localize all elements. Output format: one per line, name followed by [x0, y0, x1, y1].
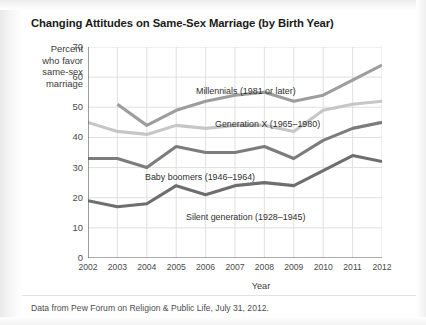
footer-divider: [22, 295, 416, 296]
x-axis-title: Year: [0, 281, 426, 291]
y-tick-label-30: 30: [61, 162, 83, 173]
page-edge-shading-bottom: [0, 317, 426, 325]
y-tick-label-40: 40: [61, 131, 83, 142]
y-tick-label-20: 20: [61, 192, 83, 203]
y-axis-title-line-2: who favor: [26, 55, 83, 67]
figure-card: Changing Attitudes on Same-Sex Marriage …: [0, 0, 426, 325]
page-edge-shading-left: [0, 0, 22, 325]
series-label-0: Millennials (1981 or later): [196, 86, 296, 96]
y-tick-label-60: 60: [61, 71, 83, 82]
source-note: Data from Pew Forum on Religion & Public…: [31, 303, 269, 313]
y-tick-label-10: 10: [61, 222, 83, 233]
plot-area: [88, 47, 382, 258]
gridlines-vertical: [117, 47, 382, 258]
x-axis-title-text: Year: [252, 281, 271, 291]
y-tick-label-50: 50: [61, 101, 83, 112]
y-tick-label-70: 70: [61, 41, 83, 52]
page-edge-shading-right: [416, 0, 426, 325]
series-label-1: Generation X (1965–1980): [215, 119, 320, 129]
series-label-3: Silent generation (1928–1945): [186, 212, 305, 222]
chart-title: Changing Attitudes on Same-Sex Marriage …: [31, 17, 334, 29]
page-edge-shading-top: [0, 0, 426, 10]
series-label-2: Baby boomers (1946–1964): [145, 172, 255, 182]
x-tick-label-2012: 2012: [365, 262, 399, 272]
line-chart-svg: [88, 47, 382, 258]
